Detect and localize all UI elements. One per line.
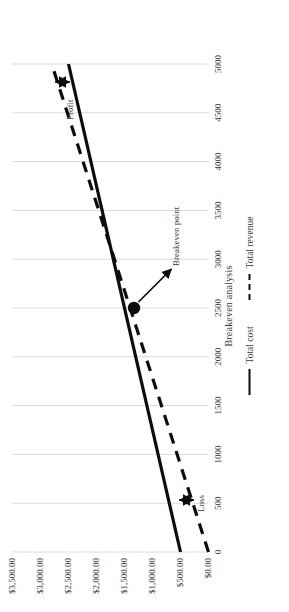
y-tick-label: $2,000.00: [90, 558, 100, 612]
legend-swatch-dashed-icon: [248, 274, 250, 300]
x-tick-label: 2000: [212, 337, 222, 377]
chart-legend: Total cost Total revenue: [244, 0, 254, 612]
plot-area: Breakeven point Profit Loss 0 500 1000 1…: [12, 64, 208, 552]
x-tick-label: 1500: [212, 386, 222, 426]
x-tick-label: 500: [212, 483, 222, 523]
annotation-loss: Loss: [195, 495, 205, 512]
annotation-breakeven-point: Breakeven point: [170, 207, 180, 266]
x-tick-label: 1000: [212, 434, 222, 474]
legend-swatch-solid-icon: [248, 369, 250, 395]
x-tick-label: 3500: [212, 190, 222, 230]
breakeven-point-leader: [138, 269, 171, 302]
x-tick-label: 3000: [212, 239, 222, 279]
x-tick-label: 2500: [212, 288, 222, 328]
y-tick-label: $2,500.00: [62, 558, 72, 612]
x-tick-label: 0: [212, 532, 222, 572]
y-tick-label: $500.00: [174, 558, 184, 612]
legend-label: Total revenue: [244, 217, 254, 269]
x-tick-label: 4500: [212, 93, 222, 133]
x-tick-label: 5000: [212, 44, 222, 84]
breakeven-point-marker: [127, 302, 139, 314]
gridlines: [12, 64, 208, 552]
legend-item-total-revenue[interactable]: Total revenue: [244, 217, 254, 301]
y-tick-label: $3,000.00: [34, 558, 44, 612]
y-tick-label: $3,500.00: [6, 558, 16, 612]
legend-item-total-cost[interactable]: Total cost: [244, 326, 254, 395]
figure-rotation-wrapper: Breakeven point Profit Loss 0 500 1000 1…: [0, 0, 289, 612]
y-tick-label: $0.00: [202, 558, 212, 612]
breakeven-chart-figure: Breakeven point Profit Loss 0 500 1000 1…: [0, 0, 289, 612]
chart-canvas: [12, 64, 208, 552]
y-tick-label: $1,000.00: [146, 558, 156, 612]
chart-title: Breakeven analysis: [222, 0, 233, 612]
x-tick-label: 4000: [212, 142, 222, 182]
y-tick-label: $1,500.00: [118, 558, 128, 612]
annotation-profit: Profit: [64, 99, 74, 120]
legend-label: Total cost: [244, 326, 254, 363]
